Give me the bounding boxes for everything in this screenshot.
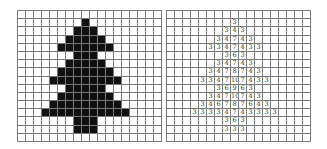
empty-cell (191, 11, 199, 19)
filled-cell (66, 77, 74, 85)
number-cell: 6 (239, 85, 247, 93)
filled-cell (98, 44, 106, 52)
empty-cell (255, 126, 263, 134)
empty-cell (287, 68, 295, 76)
number-cell: 4 (239, 60, 247, 68)
empty-cell (74, 134, 82, 142)
empty-cell (106, 126, 114, 134)
filled-cell (90, 44, 98, 52)
filled-cell (98, 36, 106, 44)
empty-cell (279, 126, 287, 134)
number-cell: 4 (247, 68, 255, 76)
empty-cell (42, 85, 50, 93)
empty-cell (50, 11, 58, 19)
empty-cell (50, 36, 58, 44)
empty-cell (303, 36, 311, 44)
empty-cell (106, 134, 114, 142)
empty-cell (199, 117, 207, 125)
empty-cell (167, 44, 175, 52)
empty-cell (207, 27, 215, 35)
empty-cell (303, 85, 311, 93)
empty-cell (271, 134, 279, 142)
empty-cell (130, 109, 138, 117)
empty-cell (122, 36, 130, 44)
empty-cell (183, 44, 191, 52)
filled-cell (74, 93, 82, 101)
number-cell: 3 (199, 77, 207, 85)
empty-cell (263, 85, 271, 93)
empty-cell (247, 134, 255, 142)
empty-cell (146, 52, 154, 60)
empty-cell (287, 27, 295, 35)
empty-cell (247, 117, 255, 125)
filled-cell (90, 60, 98, 68)
empty-cell (175, 68, 183, 76)
filled-cell (82, 85, 90, 93)
filled-cell (66, 93, 74, 101)
filled-cell (82, 68, 90, 76)
filled-cell (98, 93, 106, 101)
filled-cell (90, 109, 98, 117)
empty-cell (154, 85, 162, 93)
empty-cell (138, 19, 146, 27)
empty-cell (223, 11, 231, 19)
empty-cell (138, 52, 146, 60)
empty-cell (154, 27, 162, 35)
empty-cell (287, 93, 295, 101)
empty-cell (215, 126, 223, 134)
empty-cell (191, 52, 199, 60)
empty-cell (175, 126, 183, 134)
number-cell: 3 (223, 117, 231, 125)
number-cell: 3 (207, 68, 215, 76)
empty-cell (130, 68, 138, 76)
filled-cell (74, 109, 82, 117)
empty-cell (34, 85, 42, 93)
empty-cell (106, 117, 114, 125)
empty-cell (114, 11, 122, 19)
empty-cell (191, 36, 199, 44)
filled-cell (90, 85, 98, 93)
empty-cell (191, 68, 199, 76)
empty-cell (146, 11, 154, 19)
empty-cell (271, 44, 279, 52)
filled-cell (90, 52, 98, 60)
number-cell: 3 (191, 109, 199, 117)
empty-cell (90, 11, 98, 19)
number-cell: 6 (231, 117, 239, 125)
empty-cell (271, 93, 279, 101)
empty-cell (199, 52, 207, 60)
empty-cell (146, 117, 154, 125)
empty-cell (154, 101, 162, 109)
empty-cell (271, 77, 279, 85)
empty-cell (106, 52, 114, 60)
number-cell: 3 (255, 77, 263, 85)
number-cell: 3 (207, 77, 215, 85)
filled-cell (66, 68, 74, 76)
number-cell: 4 (239, 109, 247, 117)
empty-cell (287, 11, 295, 19)
number-cell: 4 (239, 44, 247, 52)
empty-cell (295, 27, 303, 35)
empty-cell (138, 36, 146, 44)
empty-cell (183, 85, 191, 93)
empty-cell (138, 93, 146, 101)
empty-cell (255, 52, 263, 60)
empty-cell (122, 93, 130, 101)
empty-cell (122, 11, 130, 19)
empty-cell (175, 11, 183, 19)
filled-cell (58, 77, 66, 85)
empty-cell (239, 11, 247, 19)
empty-cell (287, 44, 295, 52)
empty-cell (106, 19, 114, 27)
empty-cell (183, 77, 191, 85)
empty-cell (98, 117, 106, 125)
filled-cell (98, 85, 106, 93)
number-cell: 3 (215, 44, 223, 52)
empty-cell (114, 27, 122, 35)
empty-cell (58, 60, 66, 68)
number-cell: 6 (215, 101, 223, 109)
empty-cell (271, 126, 279, 134)
empty-cell (215, 19, 223, 27)
empty-cell (114, 68, 122, 76)
empty-cell (271, 117, 279, 125)
